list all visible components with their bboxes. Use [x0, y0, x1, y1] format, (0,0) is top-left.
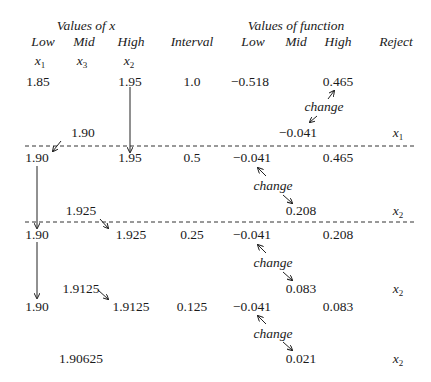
row2-low: 1.90 [25, 151, 49, 165]
row1-interval: 1.0 [184, 75, 201, 89]
row1-f-high: 0.465 [323, 75, 353, 89]
col-header-f-mid: Mid [285, 35, 307, 49]
row4-mid: 1.90625 [59, 352, 103, 366]
group-header-x: Values of x [57, 19, 116, 33]
row4-low: 1.90 [25, 300, 49, 314]
row3-f-low: −0.041 [233, 228, 271, 242]
row4-reject: x2 [393, 352, 404, 368]
row4-change-label: change [254, 327, 293, 341]
row4-high: 1.9125 [112, 300, 149, 314]
row3-high: 1.925 [116, 228, 146, 242]
row2-f-low: −0.041 [233, 151, 271, 165]
row4-f-high: 0.083 [323, 300, 353, 314]
var-x1: x1 [35, 54, 46, 70]
col-header-high: High [118, 35, 145, 49]
row1-high: 1.95 [118, 75, 142, 89]
row1-low: 1.85 [26, 75, 50, 89]
row1-change-label: change [305, 100, 344, 114]
row2-interval: 0.5 [184, 151, 201, 165]
row1-reject: x1 [393, 126, 404, 142]
row2-reject: x2 [393, 204, 404, 220]
col-header-f-high: High [325, 35, 352, 49]
col-header-low: Low [31, 35, 54, 49]
row3-mid: 1.9125 [62, 282, 99, 296]
row2-high: 1.95 [118, 151, 142, 165]
row3-f-mid: 0.083 [286, 282, 316, 296]
row1-f-low: −0.518 [231, 75, 269, 89]
row3-reject: x2 [393, 282, 404, 298]
col-header-mid: Mid [73, 35, 95, 49]
var-x2: x2 [124, 54, 135, 70]
row4-interval: 0.125 [177, 300, 207, 314]
row1-mid: 1.90 [71, 126, 95, 140]
row2-f-mid: 0.208 [286, 204, 316, 218]
row2-change-label: change [254, 179, 293, 193]
col-header-f-low: Low [241, 35, 264, 49]
arrows-layer [0, 0, 431, 382]
row3-interval: 0.25 [180, 228, 204, 242]
row2-f-high: 0.465 [323, 151, 353, 165]
group-header-function: Values of function [248, 19, 345, 33]
var-x3: x3 [77, 54, 88, 70]
row4-f-low: −0.041 [233, 300, 271, 314]
row1-f-mid: −0.041 [279, 126, 317, 140]
col-header-interval: Interval [171, 35, 214, 49]
row3-low: 1.90 [25, 228, 49, 242]
row4-f-mid: 0.021 [286, 352, 316, 366]
row3-change-label: change [254, 256, 293, 270]
row2-mid: 1.925 [66, 204, 96, 218]
row3-f-high: 0.208 [323, 228, 353, 242]
col-header-reject: Reject [379, 35, 413, 49]
